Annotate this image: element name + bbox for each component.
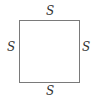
side-label-bottom: S bbox=[44, 85, 56, 97]
square-shape bbox=[19, 20, 80, 83]
side-label-top: S bbox=[44, 5, 56, 17]
side-label-right: S bbox=[80, 41, 92, 53]
side-label-left: S bbox=[5, 41, 17, 53]
